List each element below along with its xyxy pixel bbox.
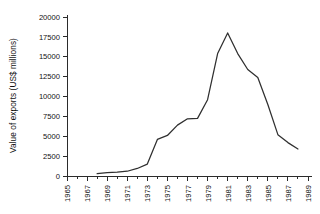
plot-area: 02500500075001000012500150001750020000 1…	[26, 2, 320, 214]
y-tick-label: 10000	[39, 92, 60, 101]
y-tick-label: 5000	[43, 132, 60, 141]
y-tick-label: 2500	[43, 152, 60, 161]
x-tick-label: 1987	[284, 185, 293, 202]
y-tick-label: 7500	[43, 112, 60, 121]
x-tick-label: 1983	[244, 185, 253, 202]
chart-figure: Value of exports (US$ millions) 02500500…	[0, 0, 320, 214]
line-chart-svg: 02500500075001000012500150001750020000 1…	[26, 2, 320, 214]
x-tick-label: 1965	[63, 185, 72, 202]
y-axis-title-wrap: Value of exports (US$ millions)	[0, 0, 26, 190]
data-series-line	[97, 33, 298, 174]
y-axis-title: Value of exports (US$ millions)	[9, 38, 18, 153]
x-tick-label: 1971	[123, 185, 132, 202]
x-tick-label: 1979	[204, 185, 213, 202]
x-tick-label: 1989	[304, 185, 313, 202]
x-tick-label: 1967	[83, 185, 92, 202]
y-tick-label: 20000	[39, 13, 60, 22]
x-axis-ticks: 1965196719691971197319751977197919811983…	[63, 176, 313, 202]
x-tick-label: 1969	[103, 185, 112, 202]
y-tick-label: 17500	[39, 33, 60, 42]
x-tick-label: 1977	[184, 185, 193, 202]
x-tick-label: 1985	[264, 185, 273, 202]
x-tick-label: 1973	[143, 185, 152, 202]
y-tick-label: 0	[56, 172, 60, 181]
y-tick-label: 12500	[39, 72, 60, 81]
x-tick-label: 1981	[224, 185, 233, 202]
x-tick-label: 1975	[163, 185, 172, 202]
y-axis-ticks: 02500500075001000012500150001750020000	[39, 13, 67, 181]
y-tick-label: 15000	[39, 52, 60, 61]
